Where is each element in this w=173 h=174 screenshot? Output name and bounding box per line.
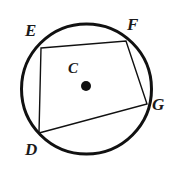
center-label-c: C — [68, 61, 78, 76]
vertex-label-d: D — [25, 141, 37, 158]
vertex-label-e: E — [25, 22, 36, 39]
center-dot-icon — [81, 81, 91, 91]
quadrilateral-DEFG — [39, 41, 147, 133]
vertex-label-f: F — [127, 16, 138, 33]
geometry-figure: E F G D C — [0, 0, 173, 174]
vertex-label-g: G — [152, 96, 164, 113]
